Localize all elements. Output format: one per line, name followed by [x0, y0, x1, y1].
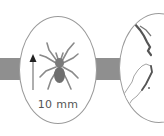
spider-panel: 10 mm	[19, 16, 97, 124]
up-arrow-icon	[30, 54, 37, 90]
scale-label: 10 mm	[20, 98, 96, 111]
spider-cephalothorax	[55, 58, 64, 68]
map-panel	[119, 13, 164, 123]
spider-abdomen	[54, 67, 65, 83]
new-zealand-map-icon	[120, 14, 164, 123]
